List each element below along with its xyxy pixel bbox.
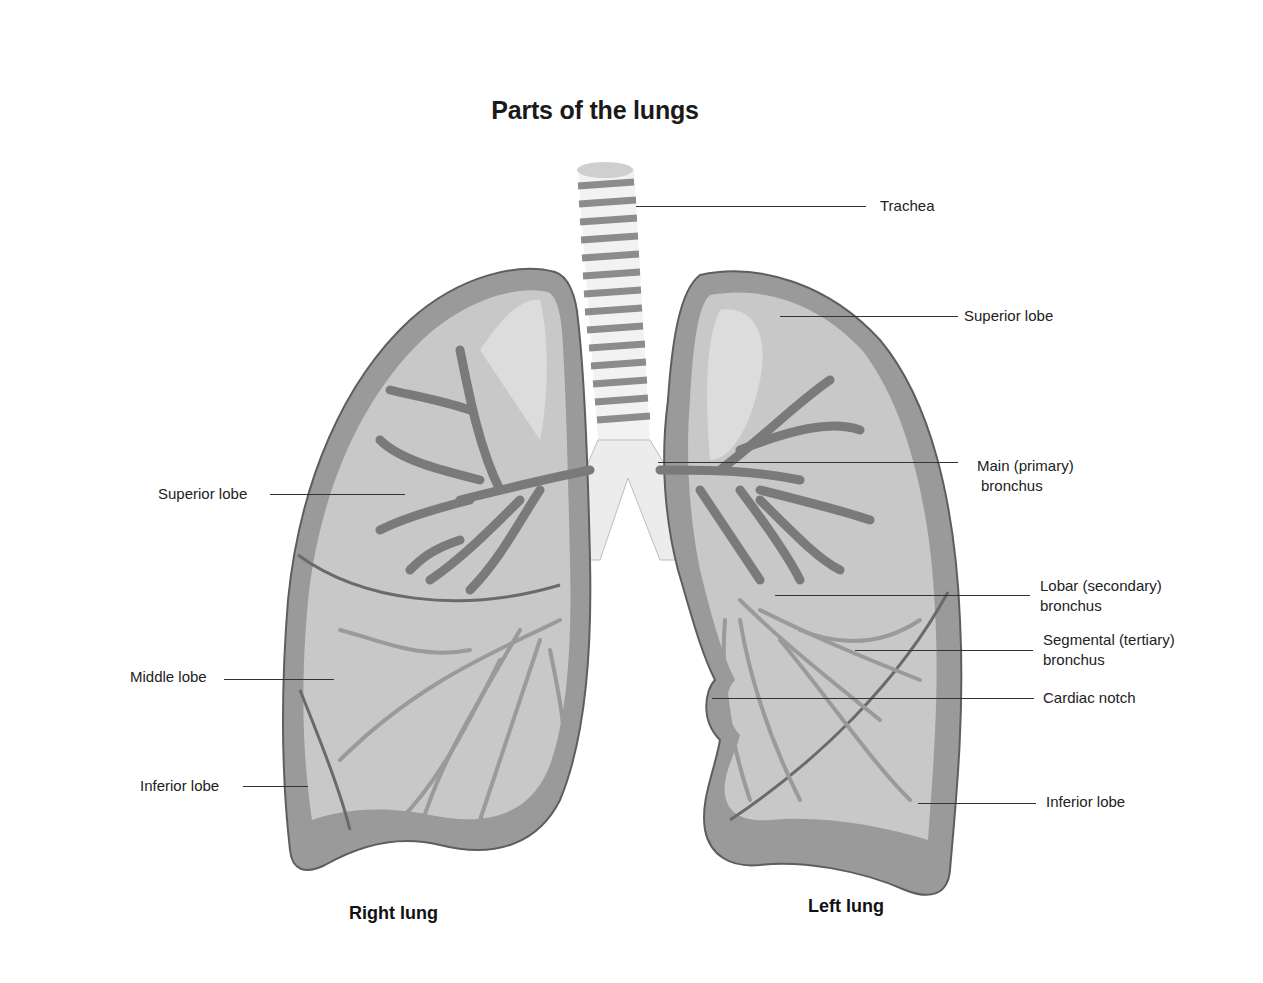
label-trachea: Trachea bbox=[880, 196, 934, 216]
label-left-superior-lobe: Superior lobe bbox=[964, 306, 1053, 326]
label-right-middle-lobe: Middle lobe bbox=[130, 667, 207, 687]
leader-left-inferior-lobe bbox=[918, 803, 1036, 804]
label-segmental-bronchus: Segmental (tertiary) bronchus bbox=[1043, 630, 1175, 670]
label-main-bronchus-line2: bronchus bbox=[977, 476, 1074, 496]
leader-main-bronchus bbox=[658, 462, 958, 463]
left-lung-icon bbox=[660, 271, 961, 894]
leader-segmental-bronchus bbox=[855, 650, 1033, 651]
label-left-lung: Left lung bbox=[808, 896, 884, 917]
label-right-inferior-lobe: Inferior lobe bbox=[140, 776, 219, 796]
leader-right-middle-lobe bbox=[224, 679, 334, 680]
leader-left-superior-lobe bbox=[780, 316, 958, 317]
label-main-bronchus: Main (primary) bronchus bbox=[977, 456, 1074, 496]
label-cardiac-notch: Cardiac notch bbox=[1043, 688, 1136, 708]
leader-lobar-bronchus bbox=[775, 595, 1030, 596]
trachea-icon bbox=[577, 162, 650, 440]
label-right-superior-lobe: Superior lobe bbox=[158, 484, 247, 504]
leader-right-inferior-lobe bbox=[243, 786, 308, 787]
label-segmental-bronchus-line2: bronchus bbox=[1043, 650, 1175, 670]
right-lung-icon bbox=[283, 269, 590, 870]
label-main-bronchus-line1: Main (primary) bbox=[977, 456, 1074, 476]
leader-cardiac-notch bbox=[712, 698, 1034, 699]
label-segmental-bronchus-line1: Segmental (tertiary) bbox=[1043, 630, 1175, 650]
label-lobar-bronchus: Lobar (secondary) bronchus bbox=[1040, 576, 1162, 616]
leader-right-superior-lobe bbox=[270, 494, 405, 495]
leader-trachea bbox=[636, 206, 866, 207]
label-left-inferior-lobe: Inferior lobe bbox=[1046, 792, 1125, 812]
label-right-lung: Right lung bbox=[349, 903, 438, 924]
label-lobar-bronchus-line2: bronchus bbox=[1040, 596, 1162, 616]
label-lobar-bronchus-line1: Lobar (secondary) bbox=[1040, 576, 1162, 596]
